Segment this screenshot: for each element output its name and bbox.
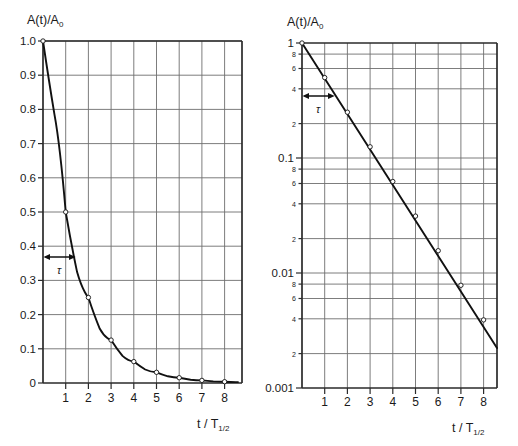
linear-y-tick-label: 0.8 [20,103,36,115]
log-y-tick-label-minor: 4 [292,316,296,323]
linear-x-ticks [66,383,225,389]
linear-x-axis-title: t / T1/2 [197,417,230,433]
log-x-tick-labels: 1 2 3 4 5 6 7 8 [321,395,487,409]
log-x-tick-label: 2 [344,395,351,409]
log-y-tick-label-minor: 4 [292,201,296,208]
log-x-tick-label: 5 [412,395,419,409]
log-y-tick-label-minor: 8 [292,51,296,58]
log-y-tick-label-minor: 8 [292,281,296,288]
log-x-tick-label: 8 [480,395,487,409]
figure-svg: A(t)/A0 [0,0,518,446]
log-x-axis-title: t / T1/2 [452,421,485,437]
linear-x-tick-label: 1 [62,391,69,405]
linear-x-tick-label: 3 [108,391,115,405]
log-y-tick-label: 1 [288,37,294,49]
log-y-tick-label-minor: 6 [292,295,296,302]
linear-x-tick-label: 4 [130,391,137,405]
log-x-ticks [325,388,484,394]
log-y-tick-labels-major: 1 0.1 0.01 0.001 [265,37,294,394]
log-tau-label: τ [316,103,321,115]
linear-x-tick-labels: 1 2 3 4 5 6 7 8 [62,391,228,405]
log-y-tick-labels-minor: 8 6 4 2 8 6 4 2 8 6 4 2 [292,51,296,358]
log-y-tick-label-minor: 2 [292,351,296,358]
log-x-tick-label: 1 [321,395,328,409]
log-y-tick-label-minor: 6 [292,65,296,72]
linear-y-tick-label: 0.1 [20,343,36,355]
decay-curves-figure: A(t)/A0 [0,0,518,446]
linear-tau-annotation: τ [44,254,76,276]
linear-x-tick-label: 5 [153,391,160,405]
log-y-tick-label-minor: 4 [292,86,296,93]
log-y-tick-label-minor: 6 [292,180,296,187]
linear-tau-label: τ [57,264,62,276]
log-x-tick-label: 4 [389,395,396,409]
linear-y-tick-label: 0.4 [20,240,37,252]
log-y-tick-label-minor: 8 [292,166,296,173]
log-x-tick-label: 3 [367,395,374,409]
linear-y-tick-label: 0.2 [20,309,36,321]
log-y-tick-label-minor: 2 [292,236,296,243]
linear-x-tick-label: 2 [85,391,92,405]
linear-y-tick-label: 0.9 [20,69,36,81]
linear-x-tick-label: 7 [199,391,206,405]
linear-x-tick-label: 6 [176,391,183,405]
log-y-axis-title: A(t)/A0 [287,15,324,31]
log-panel: A(t)/A0 [265,15,497,437]
log-y-tick-label: 0.001 [265,382,294,394]
linear-y-tick-label: 0.3 [20,274,36,286]
linear-gridlines [43,41,242,383]
linear-y-tick-label: 0.5 [20,206,36,218]
log-y-ticks-major [296,43,302,388]
linear-y-tick-label: 0 [30,377,36,389]
log-x-tick-label: 7 [458,395,465,409]
log-y-tick-label: 0.01 [272,267,294,279]
log-x-tick-label: 6 [435,395,442,409]
linear-x-tick-label: 8 [221,391,228,405]
log-y-tick-label-minor: 2 [292,121,296,128]
linear-y-tick-label: 0.6 [20,172,36,184]
linear-y-tick-label: 0.7 [20,138,36,150]
log-y-tick-label: 0.1 [278,152,294,164]
linear-panel: A(t)/A0 [20,13,242,433]
linear-y-tick-label: 1.0 [20,35,36,47]
log-tau-annotation: τ [303,93,335,115]
linear-y-tick-labels: 1.0 0.9 0.8 0.7 0.6 0.5 0.4 0.3 0.2 0.1 … [20,35,37,389]
linear-y-axis-title: A(t)/A0 [27,13,64,29]
